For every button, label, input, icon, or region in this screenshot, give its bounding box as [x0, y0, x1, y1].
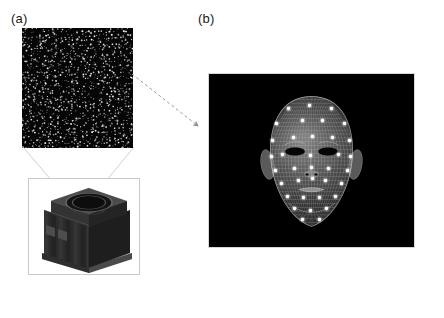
panel-label-a: (a)	[11, 12, 28, 25]
ir-speckle-pattern	[22, 28, 133, 148]
projector-device-canvas	[29, 179, 139, 274]
ir-projector-device	[28, 178, 140, 275]
face-mesh-canvas	[209, 74, 414, 247]
dashed-arrow-icon	[130, 72, 208, 134]
figure-root: (a) (b)	[0, 0, 444, 318]
speckle-pattern-canvas	[22, 28, 133, 148]
panel-label-b: (b)	[198, 12, 215, 25]
face-mesh-render	[208, 73, 415, 248]
projection-cone	[20, 146, 145, 182]
